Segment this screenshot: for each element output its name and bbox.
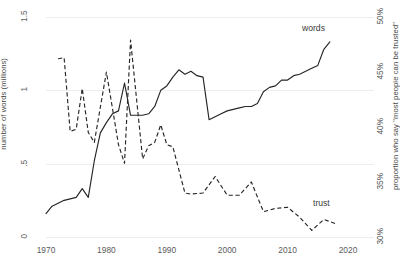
series-line-words (46, 42, 330, 214)
series-label-words: words (302, 24, 325, 33)
series-label-trust: trust (313, 199, 330, 208)
